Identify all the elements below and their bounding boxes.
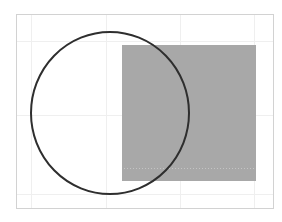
diagram-canvas bbox=[0, 0, 282, 222]
